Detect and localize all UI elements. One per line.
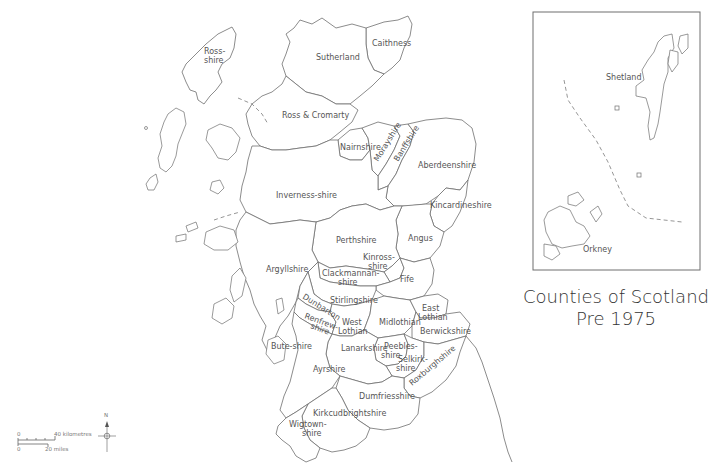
scotland-county-map: Ross- shire Sutherland Caithness Ross & … <box>0 0 712 476</box>
label-west-lothian-1: West <box>342 318 362 327</box>
label-peebles-1: Peebles- <box>384 342 418 351</box>
map-title-line2: Pre 1975 <box>520 308 712 330</box>
north-arrow-icon <box>105 421 109 427</box>
label-east-lothian-1: East <box>422 304 439 313</box>
island-rum <box>210 180 224 194</box>
label-wigtown-1: Wigtown- <box>289 420 327 429</box>
label-perthshire: Perthshire <box>336 236 377 245</box>
label-clackmannan-2: shire <box>338 278 358 287</box>
label-sutherland: Sutherland <box>316 53 360 62</box>
label-fife: Fife <box>400 275 414 284</box>
label-kincardineshire: Kincardineshire <box>430 201 492 210</box>
scale-bar: 0 40 kilometres 0 20 miles <box>17 431 92 452</box>
scale-mi-end: 20 miles <box>45 446 69 452</box>
county-ross-shire-lewis <box>182 27 236 104</box>
north-arrow: N <box>98 412 116 452</box>
label-wigtown-2: shire <box>302 429 322 438</box>
label-orkney: Orkney <box>583 245 612 254</box>
label-west-lothian-2: Lothian <box>338 327 368 336</box>
label-shetland: Shetland <box>606 73 641 82</box>
scale-km-start: 0 <box>17 431 21 437</box>
scale-km-end: 40 kilometres <box>54 431 92 437</box>
map-title-line1: Counties of Scotland <box>520 286 712 308</box>
label-stirlingshire: Stirlingshire <box>330 296 378 305</box>
label-east-lothian-2: Lothian <box>418 313 448 322</box>
island-uist <box>158 108 186 172</box>
north-label: N <box>104 412 108 418</box>
island-foula <box>637 173 641 177</box>
island-tiree <box>176 234 186 242</box>
island-st-kilda <box>145 127 148 130</box>
label-aberdeenshire: Aberdeenshire <box>418 161 476 170</box>
scale-mi-start: 0 <box>17 446 21 452</box>
label-caithness: Caithness <box>372 39 411 48</box>
island-mull <box>204 226 238 250</box>
label-kinross-1: Kinross- <box>363 253 395 262</box>
island-coll <box>186 222 198 232</box>
inset-northern-isles: Shetland Orkney <box>533 12 700 270</box>
english-border-line <box>466 336 512 462</box>
map-title: Counties of Scotland Pre 1975 <box>520 286 712 330</box>
label-argyllshire: Argyllshire <box>266 265 308 274</box>
label-dumfriesshire: Dumfriesshire <box>359 392 415 401</box>
label-inverness-shire: Inverness-shire <box>276 191 337 200</box>
label-nairnshire: Nairnshire <box>340 143 381 152</box>
label-clackmannan-1: Clackmannan- <box>322 269 380 278</box>
island-islay <box>212 298 234 324</box>
island-barra <box>146 174 158 190</box>
label-ross-cromarty: Ross & Cromarty <box>282 111 349 120</box>
label-ross-shire-lewis: Ross- <box>204 47 225 56</box>
island-fair-isle <box>615 106 619 110</box>
label-ross-shire-lewis-2: shire <box>204 56 224 65</box>
sea-boundary-dashed <box>214 212 240 220</box>
label-ayrshire: Ayrshire <box>313 365 346 374</box>
label-selkirk-2: shire <box>396 364 416 373</box>
label-bute-shire: Bute-shire <box>271 342 312 351</box>
label-kirkcudbrightshire: Kirkcudbrightshire <box>313 409 386 418</box>
island-skye <box>206 124 240 160</box>
label-selkirk-1: Selkirk- <box>398 355 428 364</box>
label-midlothian: Midlothian <box>379 318 421 327</box>
label-angus: Angus <box>408 234 433 243</box>
label-berwickshire: Berwickshire <box>420 327 471 336</box>
